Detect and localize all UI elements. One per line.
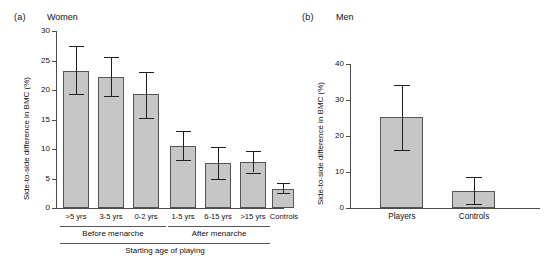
errorbar-a-4-cap-top <box>211 147 226 148</box>
panel-a-yticklabel-0: 0 <box>24 203 50 212</box>
panel-a-yticklabel-30: 30 <box>24 26 50 35</box>
figure-bar-charts: (a) Women Side-to-side difference in BMC… <box>0 0 548 261</box>
panel-a-ytick-30 <box>52 31 56 32</box>
errorbar-a-6-cap-bottom <box>277 193 290 194</box>
bracket-after-menarche-label: After menarche <box>168 229 270 238</box>
errorbar-b-controls-line-lower <box>474 191 475 205</box>
panel-a-ytick-25 <box>52 61 56 62</box>
panel-b-ytick-40 <box>346 64 350 65</box>
errorbar-a-2-line <box>146 72 147 118</box>
panel-a-tag: (a) <box>14 12 26 22</box>
panel-b-ytick-0 <box>346 208 350 209</box>
errorbar-b-players-cap-bottom <box>394 150 410 151</box>
errorbar-a-1-cap-top <box>104 57 119 58</box>
panel-b-title: Men <box>336 12 354 22</box>
panel-b-yticklabel-20: 20 <box>318 131 344 140</box>
panel-a-yticklabel-25: 25 <box>24 56 50 65</box>
errorbar-b-players-line <box>402 85 403 118</box>
panel-b-yticklabel-0: 0 <box>318 203 344 212</box>
bracket-starting-age <box>60 243 270 244</box>
errorbar-a-1-cap-bottom <box>104 96 119 97</box>
panel-a-title: Women <box>47 12 78 22</box>
panel-b-x-axis <box>350 208 540 209</box>
panel-a-ytick-20 <box>52 90 56 91</box>
panel-b-yticklabel-10: 10 <box>318 167 344 176</box>
panel-a-yticklabel-15: 15 <box>24 115 50 124</box>
panel-b-y-axis <box>350 64 351 209</box>
panel-b-ytick-30 <box>346 100 350 101</box>
errorbar-a-0-cap-top <box>69 46 84 47</box>
errorbar-a-5-line <box>253 151 254 173</box>
panel-a-yticklabel-5: 5 <box>24 174 50 183</box>
panel-a-x-axis-caption: Starting age of playing <box>60 246 270 255</box>
panel-a-women: (a) Women Side-to-side difference in BMC… <box>0 0 290 261</box>
errorbar-a-4-cap-bottom <box>211 179 226 180</box>
panel-b-yticklabel-40: 40 <box>318 59 344 68</box>
errorbar-a-3-cap-bottom <box>176 160 191 161</box>
panel-a-ytick-10 <box>52 149 56 150</box>
errorbar-a-3-line <box>183 131 184 160</box>
errorbar-b-players-cap-top <box>394 85 410 86</box>
panel-a-ytick-5 <box>52 179 56 180</box>
errorbar-b-players-line-lower <box>402 118 403 150</box>
panel-a-x-axis <box>56 208 284 209</box>
bracket-before-menarche <box>60 226 166 227</box>
panel-b-ytick-20 <box>346 136 350 137</box>
panel-a-yticklabel-20: 20 <box>24 85 50 94</box>
errorbar-a-6-line <box>283 183 284 192</box>
errorbar-b-controls-cap-bottom <box>466 204 482 205</box>
errorbar-b-controls-cap-top <box>466 177 482 178</box>
errorbar-a-3-cap-top <box>176 131 191 132</box>
errorbar-a-0-line <box>76 46 77 95</box>
errorbar-a-2-cap-top <box>139 72 154 73</box>
errorbar-a-5-cap-bottom <box>246 173 261 174</box>
errorbar-a-1-line <box>111 57 112 97</box>
panel-a-yticklabel-10: 10 <box>24 144 50 153</box>
panel-a-ytick-0 <box>52 208 56 209</box>
panel-b-tag: (b) <box>302 12 314 22</box>
errorbar-b-controls-line <box>474 177 475 191</box>
panel-b-ytick-10 <box>346 172 350 173</box>
errorbar-a-6-cap-top <box>277 183 290 184</box>
errorbar-a-4-line <box>218 147 219 180</box>
panel-a-ytick-15 <box>52 120 56 121</box>
bracket-before-menarche-label: Before menarche <box>60 229 166 238</box>
errorbar-a-2-cap-bottom <box>139 118 154 119</box>
panel-b-yticklabel-30: 30 <box>318 95 344 104</box>
xcat-b-0: Players <box>372 212 432 221</box>
xcat-b-1: Controls <box>444 212 504 221</box>
bracket-after-menarche <box>168 226 270 227</box>
errorbar-a-0-cap-bottom <box>69 94 84 95</box>
panel-a-y-axis <box>56 31 57 209</box>
errorbar-a-5-cap-top <box>246 151 261 152</box>
panel-b-men: (b) Men Side-to-side difference in BMC (… <box>290 0 548 261</box>
